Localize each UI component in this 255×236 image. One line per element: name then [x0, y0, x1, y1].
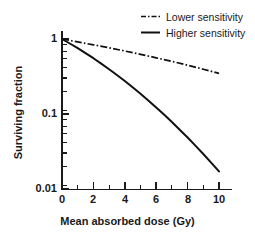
x-tick-label-6: 6: [146, 194, 166, 205]
x-axis-minor-ticks: [78, 185, 204, 189]
y-tick-label-0.01: 0.01: [14, 183, 57, 194]
legend-label-higher-sensitivity: Higher sensitivity: [166, 28, 245, 39]
x-tick-label-2: 2: [83, 194, 103, 205]
x-tick-label-4: 4: [115, 194, 135, 205]
x-axis-title: Mean absorbed dose (Gy): [0, 216, 255, 227]
y-axis-title: Surviving fraction: [13, 48, 24, 178]
x-tick-label-0: 0: [52, 194, 72, 205]
y-tick-label-0.1: 0.1: [18, 108, 57, 119]
legend-label-lower-sensitivity: Lower sensitivity: [166, 12, 243, 23]
curve-higher-sensitivity: [62, 39, 219, 171]
x-tick-label-8: 8: [178, 194, 198, 205]
x-tick-label-10: 10: [209, 194, 229, 205]
curve-lower-sensitivity: [62, 39, 219, 73]
survival-curve-figure: 1 0.1 0.01 0 2 4 6 8 10 Mean absorbed do…: [0, 0, 255, 236]
y-tick-label-1: 1: [18, 33, 57, 44]
